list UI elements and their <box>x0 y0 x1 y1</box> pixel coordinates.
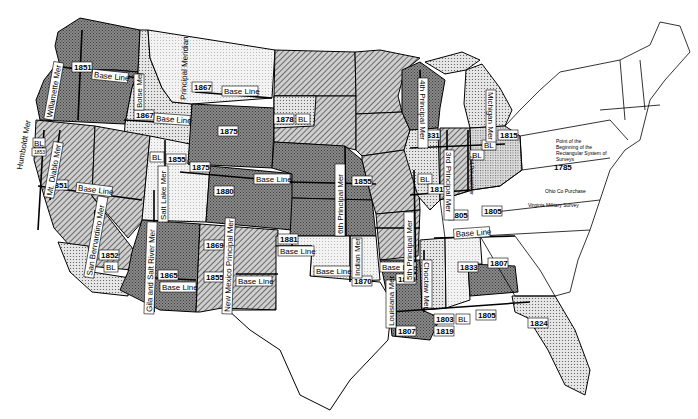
label-ca-bl: BL <box>33 138 45 148</box>
label-virginia-military: Virginia Military Survey <box>528 202 579 208</box>
svg-text:Indian Mer: Indian Mer <box>353 238 362 276</box>
label-la-1807: 1807 <box>396 326 416 336</box>
label-point-of-beginning: Point of the Beginning of the Rectangula… <box>556 138 607 162</box>
label-ca-bl2: BL <box>104 262 118 272</box>
svg-text:1881: 1881 <box>280 235 298 244</box>
svg-text:1851: 1851 <box>74 63 92 72</box>
svg-text:BL: BL <box>34 139 44 148</box>
plss-map: 1851 Base Line 1867 Base Line 1867 Base … <box>0 0 698 419</box>
svg-text:1805: 1805 <box>478 311 496 320</box>
label-in-1805b: 1805 <box>482 206 502 216</box>
label-ok-base-line: Base Line <box>278 246 316 256</box>
svg-text:BL: BL <box>298 115 308 124</box>
svg-text:1855: 1855 <box>206 273 224 282</box>
region-kansas <box>290 198 376 236</box>
label-6th-principal-mer: 6th Principal Mer <box>335 164 345 236</box>
region-washington <box>55 18 140 72</box>
nc-border <box>480 230 590 236</box>
svg-text:Virginia Military Survey: Virginia Military Survey <box>528 202 579 208</box>
svg-text:1852: 1852 <box>101 251 119 260</box>
svg-text:1807: 1807 <box>398 327 416 336</box>
label-ms-1803: 1803 <box>434 314 454 324</box>
svg-text:1853: 1853 <box>34 149 45 155</box>
svg-text:Humboldt Mer: Humboldt Mer <box>15 119 33 170</box>
svg-text:1833: 1833 <box>460 263 478 272</box>
region-florida <box>512 296 590 395</box>
region-iowa <box>356 112 410 156</box>
label-ok-base-line2: Base Line <box>314 266 352 276</box>
label-boise-mer: Boise Mer <box>134 72 144 110</box>
label-nm-base-line: Base Line <box>236 276 274 286</box>
svg-text:1869: 1869 <box>206 241 224 250</box>
svg-text:1855: 1855 <box>168 155 186 164</box>
ga-border <box>515 236 555 296</box>
svg-text:Louisiana Mer: Louisiana Mer <box>387 275 396 326</box>
svg-text:Base Line: Base Line <box>280 247 316 256</box>
svg-text:1875: 1875 <box>192 163 210 172</box>
svg-text:3rd Principal Mer: 3rd Principal Mer <box>444 152 453 213</box>
label-co-base-line: Base Line <box>254 174 292 184</box>
svg-text:BL: BL <box>484 141 494 150</box>
label-wa-1851: 1851 <box>72 62 92 72</box>
region-new-mexico <box>196 224 278 312</box>
svg-text:4th Principal Mer: 4th Principal Mer <box>418 80 427 140</box>
label-mi-1815: 1815 <box>498 130 518 140</box>
label-il-bl: BL <box>418 174 432 184</box>
label-choctaw-mer: Choctaw Mer <box>422 260 432 309</box>
label-2nd-principal-mer: 2nd Principal Mer <box>469 156 475 195</box>
label-al-1805: 1805 <box>476 310 496 320</box>
svg-text:1867: 1867 <box>136 111 154 120</box>
label-fl-1824: 1824 <box>528 318 548 328</box>
svg-text:1805: 1805 <box>484 207 502 216</box>
label-id-1867: 1867 <box>134 110 154 120</box>
svg-text:1875: 1875 <box>220 127 238 136</box>
svg-text:Choctaw Mer: Choctaw Mer <box>422 262 431 309</box>
label-nm-1869: 1869 <box>204 240 224 250</box>
svg-text:Boise Mer: Boise Mer <box>135 72 144 108</box>
svg-text:1824: 1824 <box>530 319 548 328</box>
label-mt-1867: 1867 <box>192 82 212 92</box>
label-indian-mer: Indian Mer <box>352 238 362 278</box>
region-north-dakota <box>274 50 356 96</box>
svg-text:Base Line: Base Line <box>238 277 274 286</box>
label-ut-1855: 1855 <box>166 154 186 164</box>
label-mt-base-line: Base Line <box>222 86 260 96</box>
svg-text:Ohio Co Purchase: Ohio Co Purchase <box>545 188 586 194</box>
label-al-1807: 1807 <box>488 258 508 268</box>
label-louisiana-mer: Louisiana Mer <box>386 275 396 328</box>
svg-text:1870: 1870 <box>354 277 372 286</box>
svg-text:1867: 1867 <box>194 83 212 92</box>
label-3rd-principal-mer: 3rd Principal Mer <box>444 150 454 220</box>
svg-text:1803: 1803 <box>436 315 454 324</box>
svg-text:2nd Principal Mer: 2nd Principal Mer <box>469 156 475 195</box>
label-ca-1852: 1852 <box>99 250 119 260</box>
label-co-1880: 1880 <box>214 186 234 196</box>
svg-text:Base Line: Base Line <box>316 267 352 276</box>
svg-text:5th Principal Mer: 5th Principal Mer <box>405 220 414 280</box>
label-ms-1833: 1833 <box>458 262 478 272</box>
svg-text:6th Principal Mer: 6th Principal Mer <box>336 174 345 234</box>
label-ohio-co-purchase: Ohio Co Purchase <box>545 188 586 194</box>
label-sd-bl: BL <box>296 114 310 124</box>
svg-text:Salt Lake Mer: Salt Lake Mer <box>159 170 168 220</box>
svg-text:Base Line: Base Line <box>224 87 260 96</box>
label-ca-1853: 1853 <box>32 148 46 156</box>
svg-text:1807: 1807 <box>490 259 508 268</box>
svg-text:Michigan Mer: Michigan Mer <box>486 92 495 140</box>
label-ms-1819: 1819 <box>434 326 454 336</box>
svg-text:Base Line: Base Line <box>256 175 292 184</box>
svg-text:1878: 1878 <box>276 115 294 124</box>
label-michigan-mer: Michigan Mer <box>486 90 496 142</box>
label-wy-1875: 1875 <box>218 126 238 136</box>
label-ne-1855: 1855 <box>352 176 372 186</box>
svg-text:Base Line: Base Line <box>162 283 198 292</box>
label-ut-bl: BL <box>150 152 164 162</box>
ny-border <box>520 120 628 140</box>
label-az-1865: 1865 <box>158 270 178 280</box>
svg-text:BL: BL <box>152 153 162 162</box>
svg-text:1815: 1815 <box>500 131 518 140</box>
label-4th-principal-mer: 4th Principal Mer <box>418 78 428 148</box>
label-salt-lake-mer: Salt Lake Mer <box>158 166 168 222</box>
label-sd-1878: 1878 <box>274 114 294 124</box>
svg-text:1855: 1855 <box>354 177 372 186</box>
